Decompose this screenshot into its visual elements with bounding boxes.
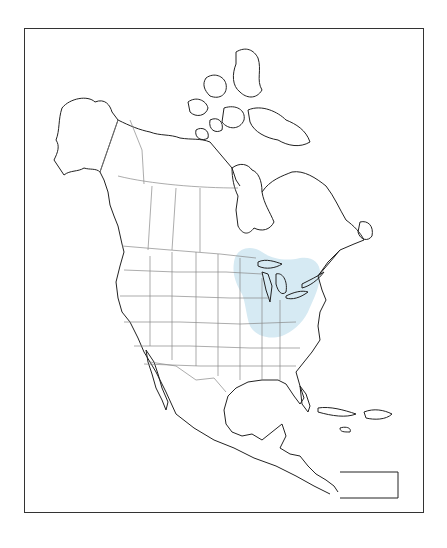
political-boundaries	[100, 120, 300, 392]
coastlines	[54, 49, 398, 498]
north-america-map	[0, 0, 447, 548]
